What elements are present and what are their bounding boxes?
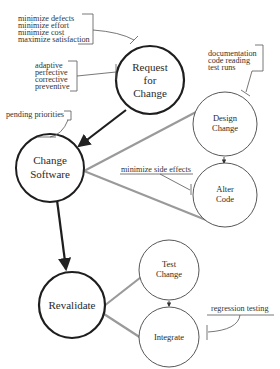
annotation-goals: minimize defects minimize effort minimiz… bbox=[18, 14, 138, 44]
svg-text:Integrate: Integrate bbox=[154, 332, 184, 342]
change-process-diagram: Request for Change Change Software Desig… bbox=[0, 0, 280, 369]
svg-text:Request: Request bbox=[132, 61, 167, 73]
svg-text:Test: Test bbox=[162, 259, 177, 269]
node-revalidate: Revalidate bbox=[39, 272, 105, 338]
node-change-software: Change Software bbox=[16, 134, 84, 202]
node-request-for-change: Request for Change bbox=[116, 46, 184, 114]
svg-text:Change: Change bbox=[33, 154, 67, 166]
svg-text:regression testing: regression testing bbox=[211, 304, 269, 313]
svg-text:maximize satisfaction: maximize satisfaction bbox=[18, 35, 90, 44]
svg-text:Design: Design bbox=[213, 113, 238, 123]
svg-text:test runs: test runs bbox=[208, 63, 236, 72]
annotation-design-inputs: documentation code reading test runs bbox=[208, 45, 263, 96]
annotation-regression-testing: regression testing bbox=[207, 304, 274, 340]
svg-text:for: for bbox=[144, 74, 157, 86]
svg-text:Revalidate: Revalidate bbox=[48, 299, 95, 311]
node-test-change: Test Change bbox=[139, 240, 199, 300]
node-integrate: Integrate bbox=[139, 307, 199, 367]
node-alter-code: Alter Code bbox=[193, 163, 257, 227]
svg-text:minimize side effects: minimize side effects bbox=[121, 165, 191, 174]
node-design-change: Design Change bbox=[193, 92, 257, 156]
svg-text:Alter: Alter bbox=[216, 184, 234, 194]
svg-text:Software: Software bbox=[30, 168, 70, 180]
svg-text:Change: Change bbox=[133, 87, 167, 99]
svg-text:Change: Change bbox=[212, 123, 238, 133]
svg-text:Code: Code bbox=[216, 194, 234, 204]
annotation-pending-priorities: pending priorities bbox=[6, 110, 71, 137]
annotation-maintenance-types: adaptive perfective corrective preventiv… bbox=[35, 61, 116, 91]
svg-text:preventive: preventive bbox=[35, 82, 70, 91]
svg-text:Change: Change bbox=[156, 269, 182, 279]
svg-text:pending priorities: pending priorities bbox=[6, 110, 64, 119]
